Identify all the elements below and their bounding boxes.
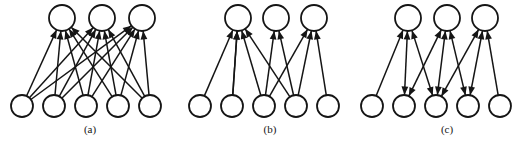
panel-c: (c) xyxy=(361,5,511,136)
edge xyxy=(401,31,410,95)
edge-line-2-4 xyxy=(437,31,445,95)
input-node-0[interactable] xyxy=(11,95,33,117)
panel-a-caption: (a) xyxy=(84,123,97,136)
input-node-1[interactable] xyxy=(43,95,65,117)
input-node-4[interactable] xyxy=(139,95,161,117)
edge xyxy=(141,31,149,95)
input-node-2[interactable] xyxy=(253,95,275,117)
input-node-2[interactable] xyxy=(75,95,97,117)
edge xyxy=(277,31,293,96)
edge-line-1-3 xyxy=(242,30,261,95)
output-node-0[interactable] xyxy=(49,5,75,31)
edge xyxy=(204,30,232,96)
output-node-1[interactable] xyxy=(263,5,289,31)
panel-c-nodes xyxy=(361,5,511,117)
edge xyxy=(233,31,240,95)
edge-arrowhead-2-4-top xyxy=(441,31,448,40)
edge-arrowhead-2-1-top xyxy=(404,31,411,40)
edge-line-1-5 xyxy=(279,31,294,96)
edge xyxy=(468,31,484,95)
edge-arrowhead-0-13-top xyxy=(108,29,115,38)
figure-container: (a)(b)(c) xyxy=(0,0,531,142)
edge-arrowhead-0-0-top xyxy=(50,30,57,39)
edge-line-0-0 xyxy=(27,30,57,96)
edge-arrowhead-2-2-bottom xyxy=(427,86,433,95)
panel-c-edges xyxy=(376,29,498,96)
edge-arrowhead-0-7-top xyxy=(95,31,102,40)
edge-line-2-0 xyxy=(376,30,403,96)
edge-line-2-2 xyxy=(412,30,433,95)
input-node-0[interactable] xyxy=(189,95,211,117)
edge xyxy=(449,31,467,96)
edge-line-1-6 xyxy=(298,31,311,95)
edge-line-2-1 xyxy=(404,31,407,95)
edge-arrowhead-1-0-top xyxy=(226,30,232,39)
edge-arrowhead-0-10-top xyxy=(103,31,110,40)
edge-line-2-8 xyxy=(487,31,498,95)
output-node-1[interactable] xyxy=(89,5,115,31)
input-node-3[interactable] xyxy=(107,95,129,117)
edge xyxy=(55,31,63,95)
input-node-2[interactable] xyxy=(425,95,447,117)
edge-arrowhead-2-7-top xyxy=(478,31,485,40)
edge xyxy=(241,30,261,95)
edge-arrowhead-2-3-bottom xyxy=(409,87,416,96)
edge xyxy=(376,30,403,96)
edge-line-2-5 xyxy=(450,31,465,96)
input-node-3[interactable] xyxy=(285,95,307,117)
edge-arrowhead-1-7-top xyxy=(300,29,307,38)
edge-line-0-3 xyxy=(55,31,61,95)
edge-arrowhead-2-2-top xyxy=(411,30,417,39)
panel-b: (b) xyxy=(189,5,339,136)
edge-arrowhead-2-7-bottom xyxy=(468,86,475,95)
panel-b-caption: (b) xyxy=(264,123,277,136)
input-node-4[interactable] xyxy=(317,95,339,117)
edge xyxy=(485,31,498,95)
panel-a: (a) xyxy=(11,5,161,136)
output-node-0[interactable] xyxy=(225,5,251,31)
panel-c-caption: (c) xyxy=(441,123,454,136)
edge-arrowhead-2-1-bottom xyxy=(401,86,408,95)
edge-arrowhead-2-6-bottom xyxy=(441,87,448,96)
input-node-1[interactable] xyxy=(393,95,415,117)
edge-line-1-9 xyxy=(316,31,326,95)
input-node-0[interactable] xyxy=(361,95,383,117)
panel-b-edges xyxy=(204,29,326,97)
edge-arrowhead-2-8-top xyxy=(485,31,492,40)
output-node-2[interactable] xyxy=(301,5,327,31)
edge-line-2-3 xyxy=(409,30,441,96)
output-node-0[interactable] xyxy=(395,5,421,31)
edge-arrowhead-1-4-top xyxy=(270,31,277,40)
edge xyxy=(409,30,441,96)
output-node-1[interactable] xyxy=(434,5,460,31)
network-diagram-svg: (a)(b)(c) xyxy=(0,0,531,142)
edge-arrowhead-1-2-top xyxy=(233,31,240,40)
edge-arrowhead-1-9-top xyxy=(314,31,321,40)
edge-arrowhead-2-0-top xyxy=(397,30,403,39)
output-node-2[interactable] xyxy=(129,5,155,31)
edge xyxy=(314,31,326,95)
panel-b-nodes xyxy=(189,5,339,117)
input-node-3[interactable] xyxy=(457,95,479,117)
panel-a-nodes xyxy=(11,5,161,117)
edge-line-1-0 xyxy=(204,30,232,96)
edge-arrowhead-2-4-bottom xyxy=(435,86,442,95)
input-node-1[interactable] xyxy=(221,95,243,117)
panel-a-edges xyxy=(27,26,149,100)
output-node-2[interactable] xyxy=(472,5,498,31)
input-node-4[interactable] xyxy=(489,95,511,117)
edge xyxy=(27,30,57,96)
edge-line-0-14 xyxy=(143,31,149,95)
edge-arrowhead-2-6-top xyxy=(472,29,479,38)
edge-arrowhead-1-6-top xyxy=(306,31,313,40)
edge-arrowhead-2-3-top xyxy=(435,30,442,39)
edge xyxy=(435,31,448,95)
edge-line-1-2 xyxy=(233,31,237,95)
